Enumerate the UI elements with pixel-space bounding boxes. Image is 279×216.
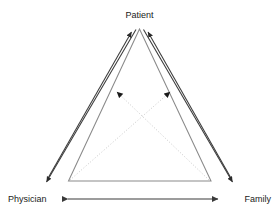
node-label-patient: Patient [0,10,279,21]
node-label-physician: Physician [8,194,47,205]
triad-diagram: Patient Physician Family [0,0,279,216]
edge-family-to-patient [148,32,232,179]
triad-diagram-svg [0,0,279,216]
edge-family-diagonal-dotted [117,92,209,180]
node-label-family: Family [245,194,272,205]
edge-physician-to-patient [48,32,132,179]
edge-patient-to-family [144,30,233,183]
edge-patient-to-physician [47,30,137,183]
edge-physician-diagonal-dotted [70,92,170,180]
